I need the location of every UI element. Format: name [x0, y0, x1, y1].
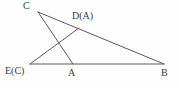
vertex-label-c: C: [23, 1, 30, 11]
segment-e-to-d: [30, 28, 79, 64]
segment-c-to-a: [38, 12, 73, 64]
vertex-label-e-c: E(C): [5, 66, 24, 76]
vertex-label-a: A: [68, 68, 75, 78]
segment-c-to-b: [38, 12, 164, 64]
geometry-figure: C D(A) E(C) A B: [0, 0, 179, 88]
vertex-label-d-a: D(A): [72, 11, 93, 21]
vertex-label-b: B: [161, 68, 168, 78]
